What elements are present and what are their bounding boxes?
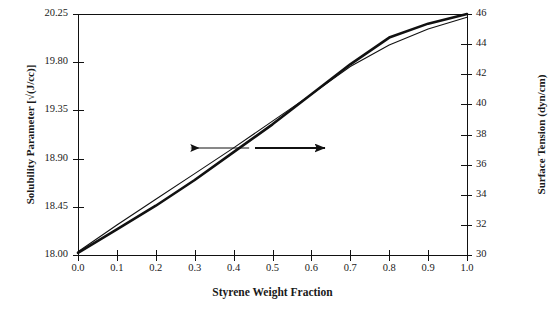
y-axis-left-tick-label: 18.00 <box>44 249 68 260</box>
x-axis-tick <box>156 250 157 261</box>
y-axis-left-title: Solubility Parameter [√(J/cc)] <box>20 14 40 255</box>
y-axis-right-tick-label: 36 <box>476 159 487 170</box>
y-axis-right-tick-label: 42 <box>476 68 487 79</box>
x-axis-tick-label: 0.1 <box>110 263 123 274</box>
data-series-line <box>78 14 467 253</box>
x-axis-tick-label: 1.0 <box>460 263 473 274</box>
y-axis-left-tick <box>73 14 84 15</box>
x-axis-tick <box>195 250 196 261</box>
axis-spine-left <box>78 14 79 255</box>
y-axis-left-tick <box>73 62 84 63</box>
x-axis-tick-label: 0.0 <box>71 263 84 274</box>
x-axis-tick <box>467 250 468 261</box>
x-axis-tick-label: 0.7 <box>344 263 357 274</box>
y-axis-right-tick-label: 46 <box>476 8 487 19</box>
y-axis-left-tick-label: 18.90 <box>44 153 68 164</box>
x-axis-title: Styrene Weight Fraction <box>78 286 467 298</box>
x-axis-tick <box>234 250 235 261</box>
y-axis-right-tick-label: 44 <box>476 38 487 49</box>
y-axis-right-tick <box>461 165 472 166</box>
y-axis-right-tick <box>461 225 472 226</box>
x-axis-tick <box>389 250 390 261</box>
y-axis-left-tick-label: 19.35 <box>44 104 68 115</box>
y-axis-left-tick <box>73 159 84 160</box>
data-series-line <box>78 17 467 252</box>
y-axis-left-tick-label: 19.80 <box>44 56 68 67</box>
y-axis-right-tick <box>461 135 472 136</box>
x-axis-tick-label: 0.8 <box>383 263 396 274</box>
y-axis-left-tick-label: 20.25 <box>44 8 68 19</box>
x-axis-tick <box>273 250 274 261</box>
y-axis-right-tick <box>461 74 472 75</box>
x-axis-tick-label: 0.9 <box>422 263 435 274</box>
y-axis-right-tick-label: 38 <box>476 129 487 140</box>
y-axis-left-tick <box>73 207 84 208</box>
y-axis-right-tick <box>461 104 472 105</box>
y-axis-right-tick-label: 30 <box>476 249 487 260</box>
x-axis-tick-label: 0.5 <box>266 263 279 274</box>
axis-spine-top <box>78 14 467 15</box>
y-axis-left-tick-label: 18.45 <box>44 201 68 212</box>
y-axis-right-tick-label: 34 <box>476 189 487 200</box>
x-axis-tick <box>117 250 118 261</box>
y-axis-right-tick <box>461 14 472 15</box>
y-axis-right-tick-label: 40 <box>476 98 487 109</box>
x-axis-tick <box>78 250 79 261</box>
x-axis-tick <box>311 250 312 261</box>
y-axis-right-tick-label: 32 <box>476 219 487 230</box>
x-axis-tick-label: 0.6 <box>305 263 318 274</box>
x-axis-tick-label: 0.4 <box>227 263 240 274</box>
y-axis-right-tick <box>461 44 472 45</box>
y-axis-right-tick <box>461 195 472 196</box>
x-axis-tick <box>428 250 429 261</box>
y-axis-left-tick <box>73 110 84 111</box>
y-axis-right-title: Surface Tension (dyn/cm) <box>531 14 551 255</box>
x-axis-tick-label: 0.2 <box>149 263 162 274</box>
x-axis-tick-label: 0.3 <box>188 263 201 274</box>
x-axis-tick <box>350 250 351 261</box>
